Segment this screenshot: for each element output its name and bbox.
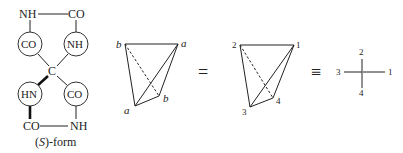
vertex-label-a-bottom: a <box>124 104 130 116</box>
tetrahedron-letters: b a b a <box>116 37 187 116</box>
identical-sign: ≡ <box>311 62 321 82</box>
fischer-label-bottom: 4 <box>359 88 364 98</box>
label-co-top: CO <box>68 7 85 21</box>
label-nh-circle: NH <box>67 38 83 50</box>
fischer-label-left: 3 <box>336 67 341 77</box>
wedge-bond-c-lower-left <box>37 76 48 86</box>
vertex-label-1: 1 <box>296 40 301 50</box>
fischer-projection: 2 3 1 4 <box>336 47 393 98</box>
label-co-circle: CO <box>21 38 36 50</box>
fischer-label-top: 2 <box>359 47 364 57</box>
label-hn-circle: HN <box>21 88 37 100</box>
tetrahedron-numbers: 2 1 4 3 <box>232 40 301 117</box>
bond-c-lower-right <box>57 76 68 86</box>
label-central-carbon: C <box>48 64 56 78</box>
label-nh-bottom: NH <box>70 119 88 133</box>
fischer-label-right: 1 <box>388 67 393 77</box>
label-nh-top: NH <box>19 7 37 21</box>
vertex-label-4: 4 <box>276 96 281 106</box>
caption-s-form: (S)-form <box>35 135 77 149</box>
vertex-label-a-top: a <box>181 37 187 49</box>
vertex-label-b-top: b <box>116 38 122 50</box>
s-form-molecule: NH CO CO NH C HN CO CO NH (S)-form <box>18 7 88 149</box>
hidden-edge <box>240 45 273 98</box>
bond-c-upper-right <box>57 54 68 66</box>
stereochemistry-diagram: NH CO CO NH C HN CO CO NH (S)-form b a b… <box>0 0 403 153</box>
label-co-circle-lower: CO <box>67 88 82 100</box>
vertex-label-b-inner: b <box>163 92 169 104</box>
label-co-bottom: CO <box>23 119 40 133</box>
vertex-label-3: 3 <box>242 107 247 117</box>
hidden-edge <box>125 44 159 96</box>
vertex-label-2: 2 <box>232 40 237 50</box>
equals-sign: = <box>198 62 208 82</box>
